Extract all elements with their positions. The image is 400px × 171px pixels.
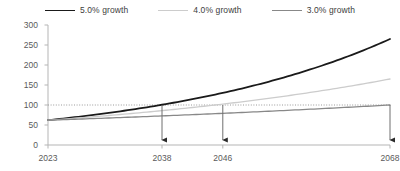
y-tick-label-0: 0 xyxy=(8,140,38,150)
plot-area: 050100150200250300 2023203820462068 xyxy=(0,0,400,171)
y-tick-label-100: 100 xyxy=(8,100,38,110)
x-tick-label-2023: 2023 xyxy=(39,153,58,163)
growth-projection-chart: 5.0% growth 4.0% growth 3.0% growth 0501… xyxy=(0,0,400,171)
x-tick-label-2068: 2068 xyxy=(381,153,400,163)
series-line-3-0-growth xyxy=(48,105,390,120)
x-tick-label-2038: 2038 xyxy=(153,153,172,163)
y-tick-label-150: 150 xyxy=(8,80,38,90)
x-tick-label-2046: 2046 xyxy=(213,153,232,163)
y-tick-label-50: 50 xyxy=(8,120,38,130)
y-tick-label-300: 300 xyxy=(8,20,38,30)
plot-svg xyxy=(0,0,400,171)
y-tick-label-200: 200 xyxy=(8,60,38,70)
y-tick-label-250: 250 xyxy=(8,40,38,50)
